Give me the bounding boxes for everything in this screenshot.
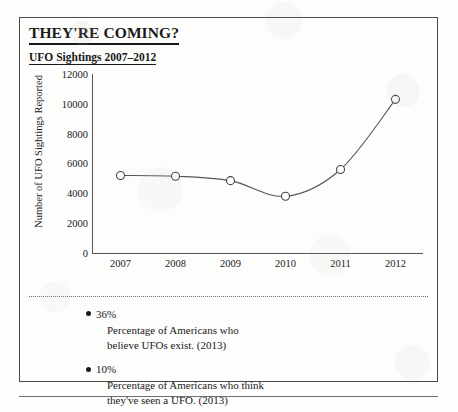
x-axis-tick-label: 2010: [275, 258, 296, 269]
data-point-marker[interactable]: [337, 165, 345, 173]
footnote-item: 10%Percentage of Americans who think the…: [86, 363, 437, 407]
y-axis-tick-label: 10000: [62, 98, 88, 109]
footnote-item: 36%Percentage of Americans who believe U…: [86, 308, 437, 352]
infographic-card: THEY'RE COMING? UFO Sightings 2007–2012 …: [19, 17, 438, 382]
data-point-marker[interactable]: [117, 171, 125, 179]
plot-area: 0200040006000800010000120002007200820092…: [92, 74, 423, 254]
footnote-description: Percentage of Americans who think they'v…: [86, 378, 437, 407]
y-axis-tick-label: 12000: [62, 68, 88, 79]
y-axis-title: Number of UFO Sightings Reported: [33, 71, 44, 231]
x-axis-tick-label: 2009: [220, 258, 241, 269]
y-axis-tick-label: 0: [83, 247, 88, 258]
footnote-value: 10%: [96, 363, 116, 375]
data-point-marker[interactable]: [392, 95, 400, 103]
line-series: [93, 74, 423, 253]
bullet-icon: [86, 367, 91, 372]
chart-container: Number of UFO Sightings Reported 0200040…: [20, 74, 437, 270]
footnote-description: Percentage of Americans who believe UFOs…: [86, 323, 437, 352]
y-axis-tick-label: 4000: [67, 188, 88, 199]
y-axis-tick-label: 6000: [67, 158, 88, 169]
x-axis-tick-label: 2011: [330, 258, 351, 269]
bottom-rule: [19, 396, 438, 397]
data-point-marker[interactable]: [282, 192, 290, 200]
subtitle-row: UFO Sightings 2007–2012: [29, 45, 437, 65]
page-title: THEY'RE COMING?: [29, 25, 179, 45]
x-axis-tick-label: 2007: [110, 258, 131, 269]
chart-subtitle: UFO Sightings 2007–2012: [29, 51, 156, 65]
footnote-head: 36%: [86, 308, 437, 320]
series-line: [121, 99, 396, 196]
data-point-marker[interactable]: [227, 177, 235, 185]
y-axis-tick-label: 2000: [67, 218, 88, 229]
footnote-head: 10%: [86, 363, 437, 375]
x-axis-tick-label: 2012: [385, 258, 406, 269]
data-point-marker[interactable]: [172, 172, 180, 180]
title-row: THEY'RE COMING?: [29, 24, 437, 45]
y-axis-tick-label: 8000: [67, 128, 88, 139]
footnote-value: 36%: [96, 308, 116, 320]
bullet-icon: [86, 311, 91, 316]
footnote-list: 36%Percentage of Americans who believe U…: [20, 297, 437, 408]
x-axis-tick-label: 2008: [165, 258, 186, 269]
card-header: THEY'RE COMING? UFO Sightings 2007–2012: [20, 18, 437, 65]
